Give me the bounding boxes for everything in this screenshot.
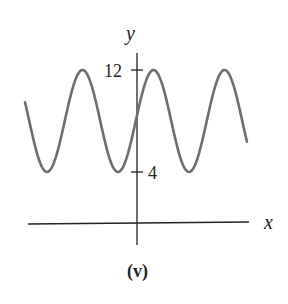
chart: y x 12 4 (v) — [0, 0, 288, 304]
sine-curve — [25, 70, 247, 172]
tick-label-12: 12 — [104, 61, 122, 81]
x-axis — [28, 222, 249, 224]
x-axis-label: x — [263, 211, 273, 233]
tick-label-4: 4 — [148, 163, 157, 183]
figure-caption: (v) — [127, 261, 148, 282]
y-axis-label: y — [124, 22, 135, 45]
